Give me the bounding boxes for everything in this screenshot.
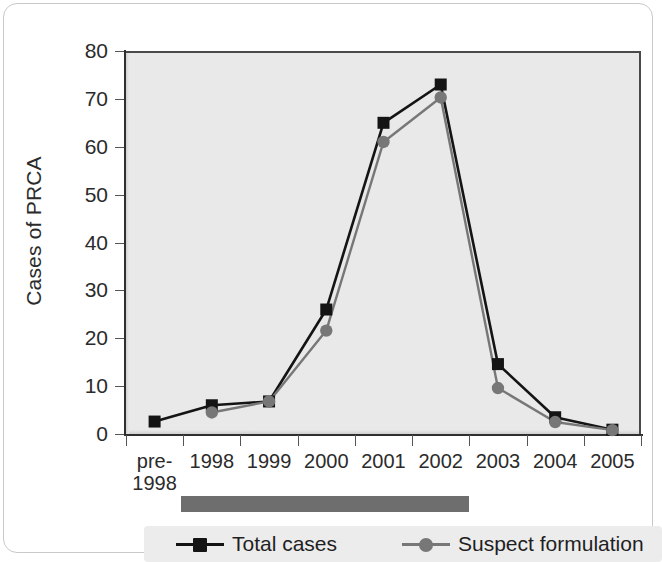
- data-point-suspect-formulation-2002: [435, 91, 447, 103]
- data-point-total-cases-2001: [378, 117, 390, 129]
- y-tick-10: [115, 386, 124, 387]
- data-point-total-cases-2003: [492, 358, 504, 370]
- y-tick-40: [115, 243, 124, 244]
- y-tick-label-50: 50: [64, 184, 108, 205]
- legend-label-suspect-formulation: Suspect formulation: [458, 532, 644, 556]
- figure-card: Cases of PRCA 01020304050607080 pre-1998…: [3, 3, 653, 553]
- series-line-suspect-formulation: [212, 97, 613, 430]
- x-tick-8: [584, 435, 585, 446]
- y-tick-label-40: 40: [64, 232, 108, 253]
- data-point-suspect-formulation-2000: [320, 324, 332, 336]
- x-tick-2: [240, 435, 241, 446]
- data-point-suspect-formulation-2005: [606, 424, 618, 436]
- chart-legend: Total cases Suspect formulation: [144, 526, 662, 562]
- legend-item-suspect-formulation: Suspect formulation: [402, 526, 644, 562]
- y-tick-label-20: 20: [64, 327, 108, 348]
- square-marker-icon: [176, 537, 224, 551]
- data-point-suspect-formulation-2003: [492, 382, 504, 394]
- x-tick-6: [469, 435, 470, 446]
- x-tick-1: [183, 435, 184, 446]
- x-tick-5: [412, 435, 413, 446]
- y-tick-80: [115, 51, 124, 52]
- data-point-total-cases-pre-1998: [149, 416, 161, 428]
- y-axis-title: Cases of PRCA: [22, 116, 52, 346]
- y-tick-0: [115, 434, 124, 435]
- x-tick-3: [298, 435, 299, 446]
- x-axis-label-2005: 2005: [577, 450, 647, 472]
- y-tick-label-80: 80: [64, 40, 108, 61]
- y-tick-70: [115, 99, 124, 100]
- suspect-formulation-period-bar: [181, 496, 469, 512]
- data-point-suspect-formulation-2001: [377, 136, 389, 148]
- data-point-suspect-formulation-2004: [549, 416, 561, 428]
- legend-label-total-cases: Total cases: [232, 532, 337, 556]
- y-tick-label-60: 60: [64, 136, 108, 157]
- data-point-suspect-formulation-1998: [206, 406, 218, 418]
- data-point-total-cases-2002: [435, 79, 447, 91]
- y-tick-label-0: 0: [64, 423, 108, 444]
- x-tick-4: [355, 435, 356, 446]
- y-tick-20: [115, 338, 124, 339]
- y-tick-label-70: 70: [64, 88, 108, 109]
- data-point-total-cases-2000: [320, 304, 332, 316]
- prca-line-chart: Cases of PRCA 01020304050607080 pre-1998…: [4, 4, 662, 562]
- data-point-suspect-formulation-1999: [263, 395, 275, 407]
- x-tick-0: [126, 435, 127, 446]
- legend-item-total-cases: Total cases: [176, 526, 337, 562]
- y-tick-60: [115, 147, 124, 148]
- y-tick-30: [115, 290, 124, 291]
- plot-area: [126, 51, 641, 434]
- y-tick-label-10: 10: [64, 375, 108, 396]
- circle-marker-icon: [402, 537, 450, 551]
- x-axis-line: [124, 434, 643, 436]
- x-tick-7: [527, 435, 528, 446]
- series-layer: [126, 51, 641, 434]
- x-tick-9: [641, 435, 642, 446]
- y-tick-50: [115, 195, 124, 196]
- y-tick-label-30: 30: [64, 279, 108, 300]
